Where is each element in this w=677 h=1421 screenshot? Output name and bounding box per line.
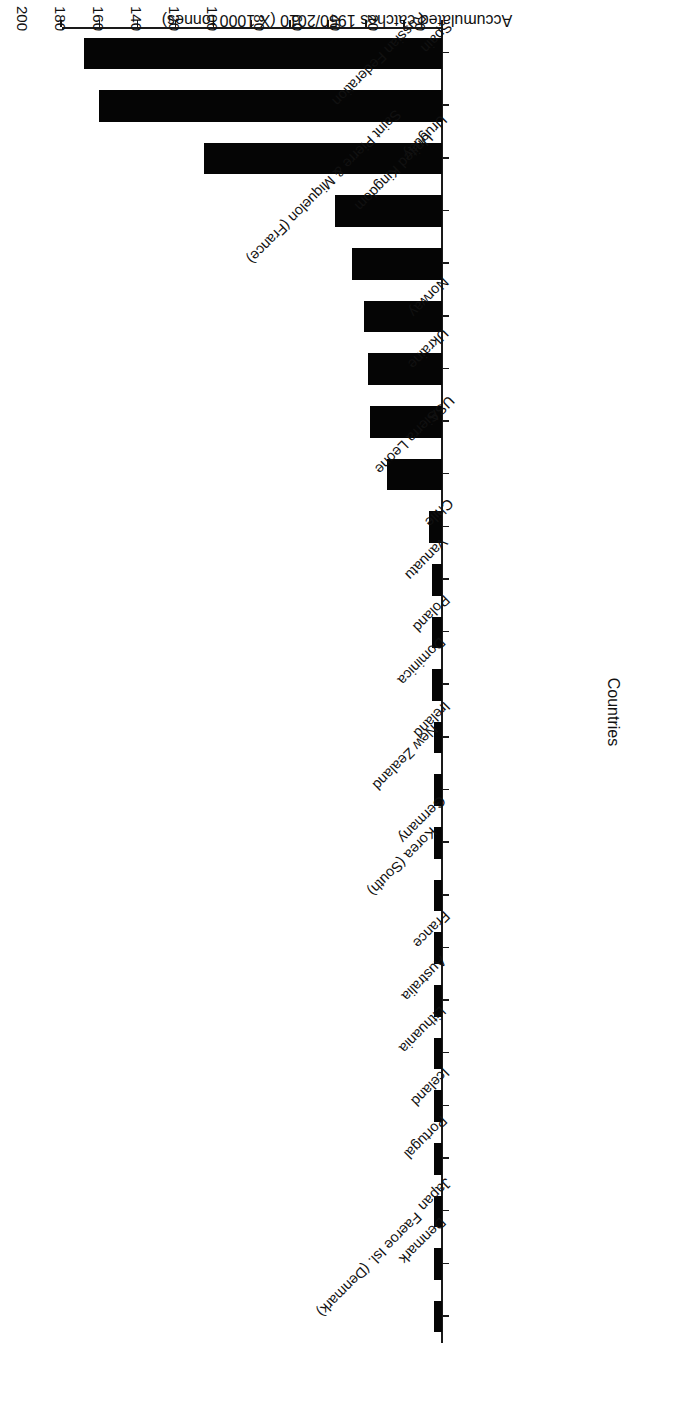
bar — [434, 1301, 442, 1333]
bar — [352, 248, 442, 280]
category-tick-label: Poland — [410, 592, 453, 635]
category-tick — [443, 473, 449, 475]
category-tick — [443, 315, 449, 317]
category-tick — [443, 789, 449, 791]
value-tick-label: 160 — [90, 6, 107, 31]
category-tick — [443, 631, 449, 633]
category-tick — [443, 1263, 449, 1265]
category-tick — [443, 736, 449, 738]
bar — [368, 353, 442, 385]
category-tick — [443, 1315, 449, 1317]
category-tick-label: New Zealand — [370, 722, 442, 794]
category-tick — [443, 1210, 449, 1212]
category-tick — [443, 104, 449, 106]
rotated-figure-container: SpainRussian FederationUruguayUnited Kin… — [0, 0, 677, 1421]
category-tick — [443, 1157, 449, 1159]
bar — [432, 669, 442, 701]
bar — [434, 880, 442, 912]
category-tick-label: Vanuatu — [402, 534, 451, 583]
category-tick — [443, 368, 449, 370]
category-tick-label: Portugal — [401, 1113, 451, 1163]
category-tick — [443, 262, 449, 264]
bar — [434, 1143, 442, 1175]
value-tick-label: 180 — [52, 6, 69, 31]
category-tick — [443, 947, 449, 949]
bar-chart-plot-area: SpainRussian FederationUruguayUnited Kin… — [62, 27, 443, 1343]
bar — [434, 1248, 442, 1280]
category-tick-label: France — [410, 908, 453, 951]
bar — [335, 195, 442, 227]
value-tick-label: 200 — [14, 6, 31, 31]
category-tick — [443, 1052, 449, 1054]
category-tick — [443, 578, 449, 580]
category-tick — [443, 157, 449, 159]
category-tick — [443, 894, 449, 896]
category-tick — [443, 210, 449, 212]
category-tick — [443, 526, 449, 528]
category-tick — [443, 1105, 449, 1107]
value-axis-title: Accumulated catches 1950/2010 (X 1000 to… — [137, 11, 537, 29]
category-tick-label: Iceland — [408, 1065, 452, 1109]
category-tick — [443, 420, 449, 422]
bar — [432, 564, 442, 596]
category-axis-title: Countries — [604, 678, 622, 746]
category-tick — [443, 999, 449, 1001]
category-tick — [443, 841, 449, 843]
category-tick — [443, 52, 449, 54]
category-tick — [443, 684, 449, 686]
